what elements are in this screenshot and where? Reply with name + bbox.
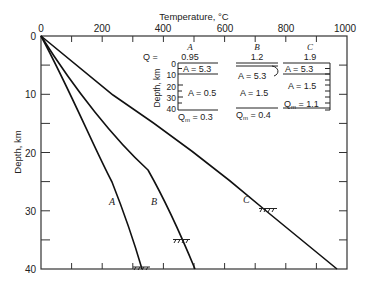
x-tick-label: 200 [94,23,111,34]
a-upper-C: A = 5.3 [285,64,313,74]
x-axis-title: Temperature, °C [159,11,228,22]
y-tick-label: 40 [25,264,37,275]
q-value-C: 1.9 [304,52,317,62]
a-upper-B: A = 5.3 [238,71,266,81]
hatch-C [259,209,277,213]
inset-depth-tick: 0 [171,59,176,69]
a-lower-A: A = 0.5 [188,88,216,98]
y-tick-labels: 0 10 20 30 40 [25,31,37,275]
geotherm-chart: Temperature, °C 0 200 400 600 800 1000 0… [0,0,366,281]
inset-depth-tick: 30 [167,93,177,103]
hatch-markers [133,209,277,271]
y-tick-label: 0 [30,31,36,42]
y-tick-label: 20 [25,148,37,159]
q-value-B: 1.2 [251,52,264,62]
x-tick-label: 400 [155,23,172,34]
hatch-B [173,240,190,244]
q-value-A: 0.95 [181,52,199,62]
y-tick-label: 10 [25,89,37,100]
inset-legend: A B C Q = 0.95 1.2 1.9 0 10 20 30 40 Dep… [143,42,330,123]
x-tick-labels: 0 200 400 600 800 1000 [38,23,356,34]
y-tick-label: 30 [25,206,37,217]
x-tick-label: 1000 [334,23,357,34]
x-tick-label: 800 [278,23,295,34]
inset-col-B: B [254,42,260,52]
qm-A: Qm = 0.3 [178,112,213,123]
qm-C: Qm = 1.1 [284,99,319,110]
curve-label-C: C [243,194,250,205]
x-tick-label: 600 [217,23,234,34]
inset-col-C: C [307,42,314,52]
inset-depth-label: Depth, km [152,69,162,108]
curve-label-B: B [151,196,157,207]
x-tick-label: 0 [38,23,44,34]
inset-depth-tick: 20 [167,82,177,92]
y-axis-title: Depth, km [12,130,23,173]
curve-A [41,36,142,269]
a-lower-B: A = 1.5 [240,88,268,98]
inset-depth-tick: 40 [167,104,177,114]
inset-depth-tick: 10 [167,70,177,80]
qm-B: Qm = 0.4 [236,110,271,121]
curve-label-A: A [108,196,116,207]
inset-col-A: A [186,42,193,52]
a-lower-C: A = 1.5 [288,81,316,91]
inset-depth-scale: 0 10 20 30 40 [167,59,177,114]
q-label: Q = [143,52,158,62]
a-upper-A: A = 5.3 [183,64,211,74]
